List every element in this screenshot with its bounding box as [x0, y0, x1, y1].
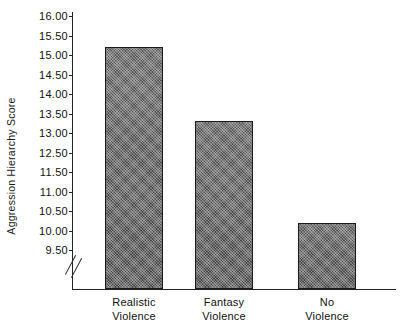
- y-axis-tick-label: 10.50: [8, 206, 68, 217]
- y-axis-tick-label: 9.50: [8, 245, 68, 256]
- category-label-line: No: [320, 296, 334, 308]
- bar: [195, 121, 253, 289]
- y-axis-tick-label: 10.00: [8, 226, 68, 237]
- y-axis-tick-label: 14.50: [8, 70, 68, 81]
- category-label-line: Violence: [272, 309, 382, 323]
- category-label-line: Realistic: [112, 296, 155, 308]
- y-axis-tick-label: 13.00: [8, 128, 68, 139]
- plot-area: [72, 12, 396, 289]
- y-axis-tick-label: 15.00: [8, 50, 68, 61]
- y-axis-tick-label: 16.00: [8, 11, 68, 22]
- x-axis-category-label: NoViolence: [272, 295, 382, 323]
- bar: [105, 47, 163, 289]
- bar: [298, 223, 356, 289]
- y-axis-tick-label: 14.00: [8, 89, 68, 100]
- bar-chart: Aggression Hierarchy Score 16.0015.5015.…: [0, 0, 408, 332]
- y-axis-tick-label: 13.50: [8, 109, 68, 120]
- y-axis-tick-labels: 16.0015.5015.0014.5014.0013.5013.0012.50…: [16, 0, 68, 332]
- y-axis-tick-label: 15.50: [8, 31, 68, 42]
- y-axis-tick-label: 11.00: [8, 187, 68, 198]
- category-label-line: Violence: [169, 309, 279, 323]
- y-axis-tick-label: 11.50: [8, 167, 68, 178]
- category-label-line: Fantasy: [204, 296, 245, 308]
- y-axis-tick-label: 12.50: [8, 148, 68, 159]
- x-axis-category-label: FantasyViolence: [169, 295, 279, 323]
- x-axis-line: [72, 289, 396, 290]
